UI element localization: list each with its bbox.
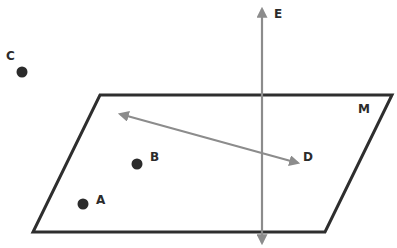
- label-e: E: [274, 7, 282, 21]
- point-b: [132, 159, 143, 170]
- line-d: [120, 114, 298, 163]
- label-m: M: [358, 102, 370, 116]
- label-c: C: [6, 49, 15, 63]
- point-c: [17, 67, 28, 78]
- label-b: B: [150, 150, 159, 164]
- plane-m: [33, 95, 392, 232]
- label-a: A: [96, 193, 106, 207]
- label-d: D: [303, 150, 313, 164]
- geometry-diagram: C E M B D A: [0, 0, 397, 248]
- point-a: [78, 199, 89, 210]
